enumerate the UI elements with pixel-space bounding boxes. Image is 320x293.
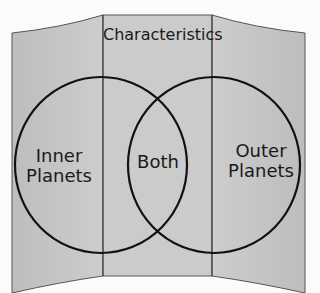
center-fold-panel xyxy=(103,15,212,276)
header-label: Characteristics xyxy=(103,26,213,44)
inner-planets-label: Inner Planets xyxy=(22,146,96,186)
outer-label-line-2: Planets xyxy=(224,161,298,181)
inner-label-line-2: Planets xyxy=(22,166,96,186)
outer-label-line-1: Outer xyxy=(224,141,298,161)
inner-label-line-1: Inner xyxy=(22,146,96,166)
outer-planets-label: Outer Planets xyxy=(224,141,298,181)
both-label: Both xyxy=(128,152,188,172)
